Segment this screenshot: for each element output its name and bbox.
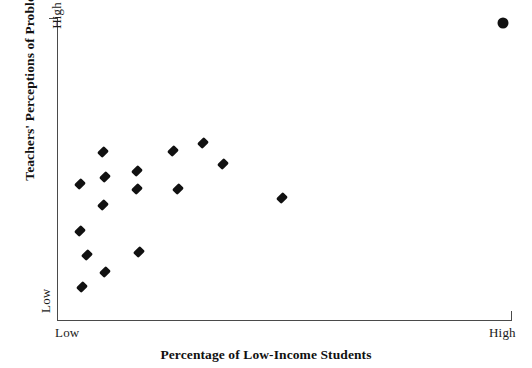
data-point-diamond — [74, 225, 86, 237]
x-axis-tick-label-low: Low — [55, 325, 79, 341]
data-point-diamond — [276, 192, 288, 204]
x-axis-title: Percentage of Low-Income Students — [0, 347, 532, 363]
data-point-diamond — [131, 183, 143, 195]
data-point-diamond — [172, 183, 184, 195]
y-axis-tick-label-low: Low — [38, 267, 54, 313]
data-point-diamond — [74, 178, 86, 190]
data-point-circle — [497, 17, 508, 28]
data-point-diamond — [99, 266, 111, 278]
plot-area — [57, 18, 512, 320]
data-point-diamond — [217, 158, 229, 170]
scatter-plot-figure: High Low Low High Teachers' Perceptions … — [0, 0, 532, 368]
data-point-diamond — [97, 146, 109, 158]
data-point-diamond — [76, 281, 88, 293]
data-point-diamond — [81, 249, 93, 261]
data-point-diamond — [97, 199, 109, 211]
data-point-diamond — [197, 137, 209, 149]
x-axis-tick-label-high: High — [489, 325, 516, 341]
data-point-diamond — [99, 171, 111, 183]
x-axis-line — [57, 320, 512, 321]
data-point-diamond — [131, 165, 143, 177]
data-point-diamond — [133, 246, 145, 258]
data-point-diamond — [167, 145, 179, 157]
y-axis-title: Teachers' Perceptions of Problems — [22, 0, 38, 195]
